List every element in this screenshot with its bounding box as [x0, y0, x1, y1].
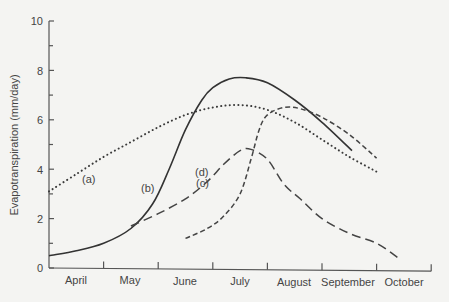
curve-label-c: (c) [196, 177, 209, 189]
curve-label-b: (b) [141, 182, 154, 194]
y-axis [49, 21, 54, 268]
y-tick-label-2: 2 [37, 213, 43, 225]
y-tick-label-8: 8 [37, 65, 43, 77]
y-tick-labels: 0 2 4 6 8 10 [31, 15, 43, 274]
month-label-august: August [277, 276, 311, 288]
evapotranspiration-chart: Evapotranspiration (mm/day) 0 2 4 6 8 10… [0, 0, 449, 302]
y-tick-label-6: 6 [37, 114, 43, 126]
x-axis [49, 261, 431, 271]
month-label-may: May [120, 274, 141, 286]
curve-a-dotted [49, 105, 377, 191]
month-label-july: July [230, 275, 250, 287]
month-label-june: June [173, 275, 197, 287]
x-month-labels: April May June July August September Oct… [65, 274, 424, 288]
y-tick-label-4: 4 [37, 164, 43, 176]
month-label-april: April [65, 274, 87, 286]
curve-c-short-dashed [186, 107, 377, 238]
curve-label-d: (d) [195, 166, 208, 178]
y-tick-label-10: 10 [31, 15, 43, 27]
month-label-september: September [321, 276, 375, 288]
y-tick-label-0: 0 [37, 262, 43, 274]
y-axis-title: Evapotranspiration (mm/day) [8, 74, 20, 215]
curve-label-a: (a) [82, 173, 95, 185]
month-label-october: October [384, 276, 423, 288]
